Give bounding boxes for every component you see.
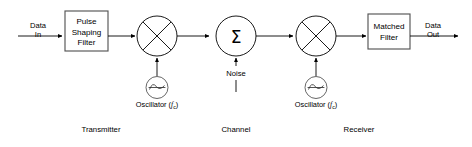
mixer-tx: [137, 16, 177, 56]
pulse-shaping-filter-line2: Shaping: [72, 28, 102, 37]
noise-label: Noise: [226, 69, 245, 78]
oscillator-rx-label: Oscillator (fc): [295, 100, 337, 110]
summation-node: Σ: [216, 16, 256, 56]
noise-input: Noise: [226, 58, 245, 92]
oscillator-rx-label-text: Oscillator (: [295, 100, 331, 109]
pulse-shaping-filter-line1: Pulse: [76, 17, 97, 26]
pulse-shaping-filter-line3: Filter: [78, 38, 96, 47]
matched-filter-line2: Filter: [380, 33, 398, 42]
oscillator-tx: Oscillator (fc): [136, 77, 178, 110]
oscillator-tx-label-text: Oscillator (: [136, 100, 172, 109]
section-label-receiver: Receiver: [344, 125, 375, 134]
section-label-transmitter: Transmitter: [81, 125, 121, 134]
data-in-label-line2: In: [35, 30, 41, 39]
data-in-label-line1: Data: [30, 21, 47, 30]
section-label-channel: Channel: [221, 125, 250, 134]
oscillator-tx-close: ): [176, 100, 178, 109]
data-out-signal: Data Out: [410, 21, 458, 39]
mixer-rx: [296, 16, 336, 56]
sigma-symbol: Σ: [231, 27, 242, 47]
matched-filter-block: Matched Filter: [368, 14, 410, 49]
data-out-label-line1: Data: [425, 21, 442, 30]
data-in-signal: Data In: [18, 21, 62, 39]
oscillator-rx: Oscillator (fc): [295, 77, 337, 110]
oscillator-tx-label: Oscillator (fc): [136, 100, 178, 110]
pulse-shaping-filter-block: Pulse Shaping Filter: [65, 11, 108, 51]
matched-filter-box: [368, 14, 410, 49]
matched-filter-line1: Matched: [373, 22, 404, 31]
oscillator-rx-close: ): [335, 100, 337, 109]
data-out-label-line2: Out: [427, 30, 440, 39]
communication-system-block-diagram: Data In Pulse Shaping Filter Oscillator …: [0, 0, 472, 147]
